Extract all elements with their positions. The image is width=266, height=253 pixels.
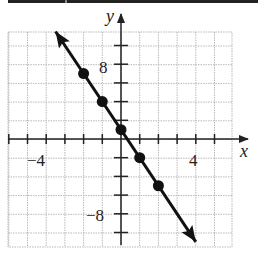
y-axis-label: y (104, 6, 114, 26)
data-line (56, 31, 196, 241)
data-point (134, 152, 145, 163)
x-axis-label: x (239, 141, 248, 161)
coordinate-plane: x y −4 4 8 −8 (0, 0, 266, 253)
data-point (97, 96, 108, 107)
axes (8, 14, 248, 245)
data-point (153, 180, 164, 191)
arrowhead-icon (182, 225, 196, 242)
y-tick-label-8: 8 (99, 58, 108, 77)
arrowhead-icon (56, 31, 70, 48)
data-point (116, 124, 127, 135)
x-tick-label-neg4: −4 (27, 151, 46, 170)
x-tick-label-4: 4 (189, 151, 198, 170)
data-point (78, 68, 89, 79)
y-tick-label-neg8: −8 (86, 206, 104, 225)
